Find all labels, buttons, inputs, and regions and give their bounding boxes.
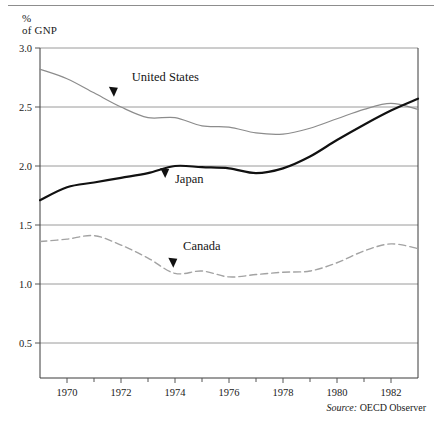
y-tick-label: 3.0 — [19, 43, 32, 54]
line-chart: 3.02.52.01.51.00.51970197219741976197819… — [0, 0, 442, 431]
x-tick-label: 1970 — [57, 387, 78, 398]
pointer-arrow-icon — [160, 168, 169, 178]
series-annotations: United StatesJapanCanada — [109, 70, 221, 268]
x-tick-label: 1982 — [381, 387, 402, 398]
source-label: Source: — [326, 402, 357, 413]
y-tick-label: 0.5 — [19, 338, 32, 349]
source-note: Source: OECD Observer — [326, 402, 426, 413]
y-tick-label: 2.5 — [19, 102, 32, 113]
x-tick-label: 1976 — [219, 387, 240, 398]
plot-frame — [40, 48, 418, 378]
axis-ticks — [35, 48, 391, 383]
y-tick-label: 1.0 — [19, 279, 32, 290]
source-text: OECD Observer — [360, 402, 426, 413]
series-line-canada — [40, 235, 418, 277]
series-line-united-states — [40, 69, 418, 134]
tick-labels: 3.02.52.01.51.00.51970197219741976197819… — [19, 43, 402, 399]
x-tick-label: 1974 — [165, 387, 187, 398]
data-series — [40, 69, 418, 277]
series-line-japan — [40, 99, 418, 200]
series-label-canada: Canada — [183, 239, 221, 253]
series-label-united-states: United States — [132, 70, 199, 84]
x-tick-label: 1972 — [111, 387, 132, 398]
pointer-arrow-icon — [109, 87, 118, 97]
y-tick-label: 2.0 — [19, 161, 32, 172]
y-tick-label: 1.5 — [19, 220, 32, 231]
x-tick-label: 1980 — [327, 387, 348, 398]
pointer-arrow-icon — [168, 258, 177, 268]
x-tick-label: 1978 — [273, 387, 294, 398]
series-label-japan: Japan — [175, 172, 204, 186]
figure-page: % of GNP 3.02.52.01.51.00.51970197219741… — [0, 0, 442, 431]
grid-lines — [40, 48, 418, 343]
